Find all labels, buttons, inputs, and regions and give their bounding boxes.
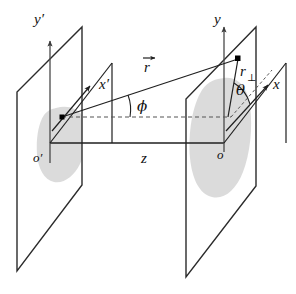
left-origin-point: [60, 115, 65, 120]
label-y-prime: y′: [32, 11, 45, 27]
label-x-prime: x′: [98, 76, 110, 92]
target-point: [235, 56, 241, 62]
label-theta: θ: [236, 81, 245, 99]
left-plane-group: [17, 27, 87, 271]
label-o: o: [217, 147, 224, 162]
geometry-diagram: y′ x′ o′ y x o z r r ⊥ ϕ θ: [0, 0, 296, 294]
phi-angle-arc: [128, 95, 131, 117]
label-z: z: [140, 150, 147, 166]
label-r-perp-base: r: [240, 63, 246, 79]
figure-container: y′ x′ o′ y x o z r r ⊥ ϕ θ: [0, 0, 296, 294]
label-phi: ϕ: [137, 97, 147, 115]
label-r-perp-subscript: ⊥: [247, 72, 256, 83]
label-y: y: [212, 11, 221, 27]
label-x: x: [272, 76, 280, 92]
label-o-prime: o′: [33, 150, 43, 165]
label-r-vector: r: [144, 59, 150, 75]
